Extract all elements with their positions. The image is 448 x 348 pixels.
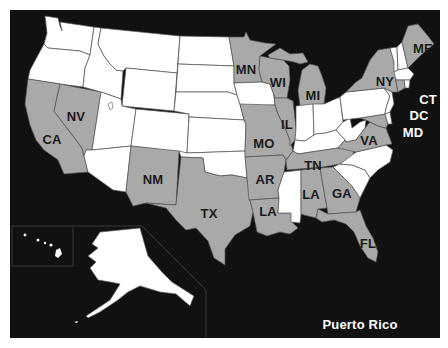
state-label-al: LA [302, 187, 320, 202]
state-label-fl: FL [360, 236, 376, 251]
state-label-nm: NM [143, 172, 164, 187]
state-ks[interactable] [187, 117, 246, 153]
state-label-mn: MN [236, 62, 257, 77]
state-label-me: ME [413, 41, 433, 56]
state-label-la: LA [259, 204, 277, 219]
state-label-ga: GA [332, 186, 352, 201]
state-label-ny: NY [376, 74, 394, 89]
state-label-tx: TX [200, 206, 217, 221]
state-label-ct: CT [419, 92, 437, 107]
state-label-mi: MI [306, 88, 321, 103]
us-map [0, 0, 448, 348]
state-nd[interactable] [178, 36, 234, 66]
state-label-wi: WI [270, 75, 286, 90]
state-ia[interactable] [234, 82, 275, 107]
puerto-rico-label: Puerto Rico [322, 317, 397, 332]
state-co[interactable] [131, 109, 189, 153]
state-label-ar: AR [255, 172, 274, 187]
state-label-dc: DC [409, 108, 428, 123]
state-sd[interactable] [176, 64, 237, 95]
state-label-ca: CA [42, 132, 61, 147]
state-label-tn: TN [304, 158, 322, 173]
state-label-mo: MO [253, 136, 274, 151]
state-label-nv: NV [67, 109, 85, 124]
state-wy[interactable] [122, 68, 177, 111]
state-in[interactable] [295, 104, 314, 141]
state-label-va: VA [360, 133, 378, 148]
state-label-il: IL [281, 117, 293, 132]
state-label-md: MD [403, 125, 424, 140]
